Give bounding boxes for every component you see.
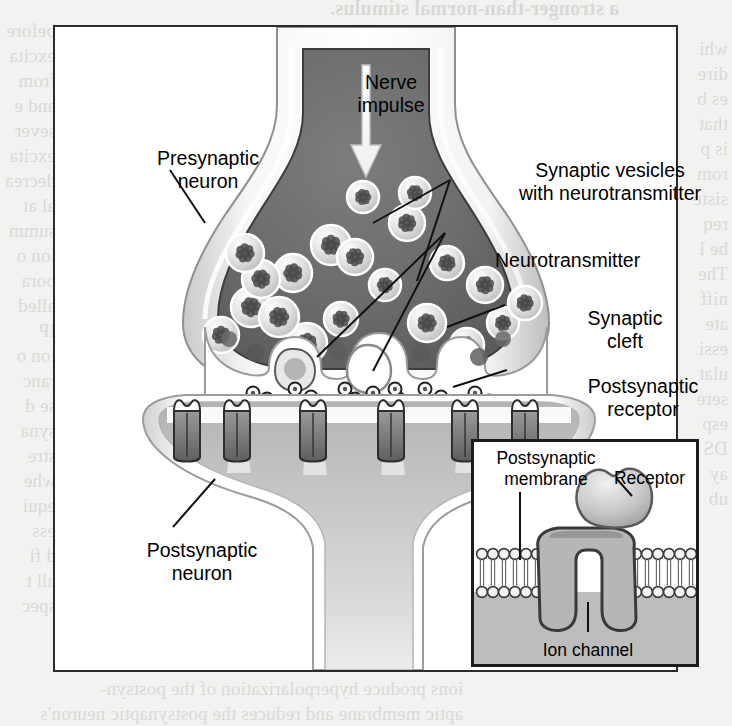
lipid-head: [653, 549, 664, 560]
inset-label-ion-channel: Ion channel: [518, 640, 658, 661]
label-synaptic-cleft: Synaptic cleft: [560, 307, 690, 353]
lipid-head: [499, 549, 510, 560]
neurotransmitter-molecule: [289, 383, 302, 396]
lipid-head: [642, 587, 653, 598]
label-postsynaptic-neuron: Postsynaptic neuron: [117, 539, 287, 585]
postsynaptic-receptor: [378, 400, 404, 461]
synaptic-vesicle: [508, 286, 542, 320]
synaptic-vesicle: [467, 267, 503, 303]
synaptic-vesicle: [226, 234, 264, 272]
lipid-head: [642, 549, 653, 560]
lipid-head: [664, 549, 675, 560]
lipid-head: [686, 549, 696, 560]
postsynaptic-receptor: [300, 400, 326, 461]
synaptic-vesicle: [324, 302, 358, 336]
neurotransmitter-molecule: [389, 383, 402, 396]
inset-label-postsynaptic-membrane: Postsynaptic membrane: [486, 448, 606, 490]
lipid-head: [675, 587, 686, 598]
lipid-bilayer-right: [631, 549, 696, 598]
lipid-head: [521, 587, 532, 598]
figure-frame: Nerve impulse Presynaptic neuron Synapti…: [53, 25, 678, 672]
page-bleed-left: before excita from and e sever excita de…: [0, 18, 56, 618]
lipid-head: [510, 587, 521, 598]
lipid-head: [499, 587, 510, 598]
lipid-head: [510, 549, 521, 560]
lipid-head: [653, 587, 664, 598]
lipid-bilayer-left: [477, 549, 543, 598]
lipid-head: [488, 549, 499, 560]
synaptic-vesicle: [259, 297, 299, 337]
inset-label-receptor: Receptor: [602, 468, 697, 489]
label-synaptic-vesicles: Synaptic vesicles with neurotransmitter: [485, 159, 732, 205]
label-postsynaptic-receptor: Postsynaptic receptor: [563, 375, 723, 421]
synaptic-vesicle: [347, 181, 379, 213]
synaptic-vesicle: [408, 304, 446, 342]
postsynaptic-receptor: [174, 400, 200, 461]
leader-postsynaptic-neuron: [173, 479, 215, 527]
lipid-head: [488, 587, 499, 598]
neurotransmitter-molecule: [339, 383, 352, 396]
label-presynaptic-neuron: Presynaptic neuron: [133, 147, 283, 193]
inset-panel-postsynaptic-membrane: Postsynaptic membrane Receptor Ion chann…: [471, 439, 699, 667]
lipid-head: [686, 587, 696, 598]
synaptic-vesicle: [337, 239, 373, 275]
lipid-head: [664, 587, 675, 598]
page-bleed-bottom: ions produce hyperpolarization of the po…: [40, 676, 463, 726]
synaptic-vesicle: [369, 269, 401, 301]
neurotransmitter-molecule: [419, 383, 432, 396]
label-neurotransmitter: Neurotransmitter: [495, 249, 710, 272]
lipid-head: [477, 587, 488, 598]
lipid-head: [521, 549, 532, 560]
fusing-vesicle-core: [284, 358, 306, 380]
lipid-head: [477, 549, 488, 560]
label-nerve-impulse: Nerve impulse: [331, 71, 451, 117]
exocytosis-pore: [347, 345, 391, 393]
postsynaptic-receptor: [224, 400, 250, 461]
page-bleed-top: a stronger-than-normal stimulus.: [330, 0, 619, 21]
lipid-head: [675, 549, 686, 560]
